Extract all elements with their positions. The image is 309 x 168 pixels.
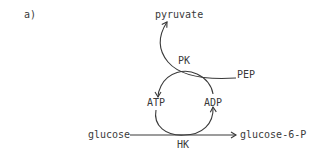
node-pep: PEP: [237, 70, 255, 80]
node-glucose: glucose: [88, 130, 130, 140]
enzyme-pk-label: PK: [178, 56, 190, 66]
node-adp: ADP: [204, 98, 222, 108]
atp-to-adp-arc: [156, 107, 213, 135]
pathway-arrows: [0, 0, 309, 168]
panel-label: a): [24, 10, 36, 20]
node-atp: ATP: [147, 98, 165, 108]
enzyme-hk-label: HK: [177, 140, 189, 150]
node-glucose-6-p: glucose-6-P: [240, 130, 306, 140]
node-pyruvate: pyruvate: [155, 10, 203, 20]
pk-reaction-arrow: [160, 22, 236, 78]
